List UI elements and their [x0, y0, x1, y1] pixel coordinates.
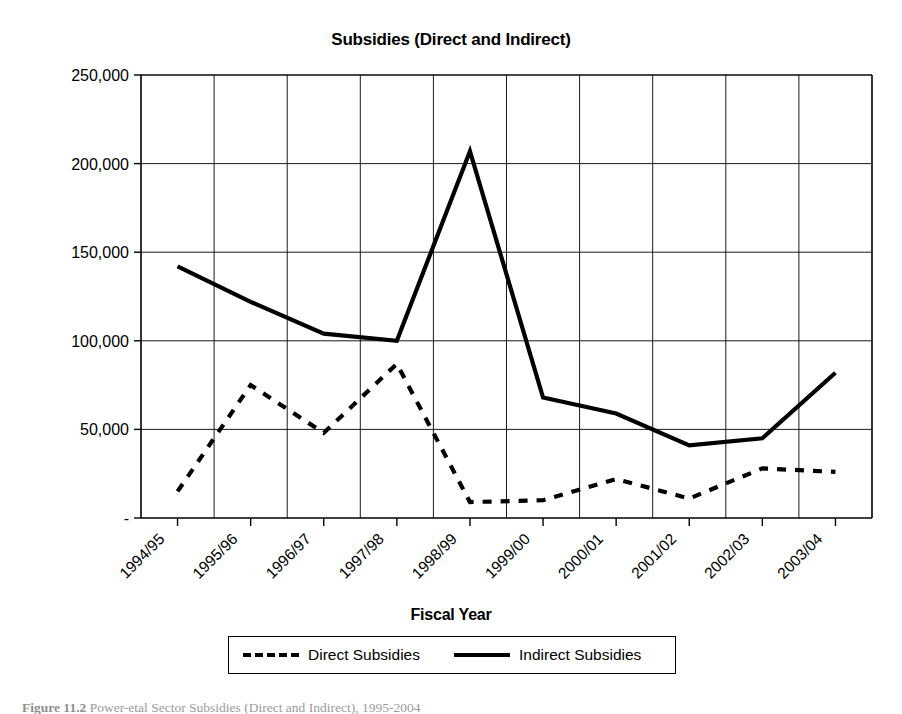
x-tick-label: 1994/95 [116, 530, 168, 582]
legend-label-indirect: Indirect Subsidies [519, 646, 641, 664]
figure-caption: Figure 11.2 Power-etal Sector Subsidies … [22, 700, 882, 714]
legend-swatch-solid-icon [454, 648, 510, 662]
figure-caption-text: Power-etal Sector Subsidies (Direct and … [90, 700, 421, 714]
legend-item-direct[interactable]: Direct Subsidies [243, 646, 420, 664]
x-tick-label: 1995/96 [189, 530, 241, 582]
legend-swatch-dashed-icon [243, 648, 299, 662]
y-tick-label: 50,000 [80, 421, 129, 438]
x-tick-label: 2002/03 [701, 530, 753, 582]
y-tick-label: 250,000 [71, 67, 129, 84]
y-tick-label: 200,000 [71, 156, 129, 173]
x-tick-label: 2000/01 [555, 530, 607, 582]
x-axis-title: Fiscal Year [0, 606, 902, 624]
x-tick-label: 2001/02 [628, 530, 680, 582]
x-tick-label: 1997/98 [335, 530, 387, 582]
figure-caption-number: Figure 11.2 [22, 700, 86, 714]
legend-label-direct: Direct Subsidies [308, 646, 420, 664]
figure-container: Subsidies (Direct and Indirect) UGX mill… [0, 0, 902, 714]
chart-plot-area: -50,000100,000150,000200,000250,0001994/… [0, 0, 902, 600]
x-tick-label: 1999/00 [482, 530, 534, 582]
x-tick-label: 2003/04 [774, 530, 826, 582]
y-tick-label: 100,000 [71, 333, 129, 350]
y-tick-label: - [124, 510, 129, 527]
chart-legend: Direct Subsidies Indirect Subsidies [228, 636, 676, 674]
legend-item-indirect[interactable]: Indirect Subsidies [454, 646, 641, 664]
y-tick-label: 150,000 [71, 244, 129, 261]
x-tick-label: 1996/97 [262, 530, 314, 582]
x-tick-label: 1998/99 [408, 530, 460, 582]
